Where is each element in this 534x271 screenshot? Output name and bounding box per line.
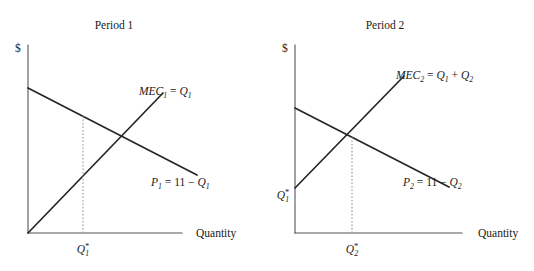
panel-1-demand-curve bbox=[28, 88, 197, 175]
panel-1-y-axis-label: $ bbox=[15, 42, 21, 54]
panel-2-mec-label: MEC2 = Q1 + Q2 bbox=[395, 69, 473, 84]
panel-period-2: Period 2 $ MEC2 = Q1 + Q2 P2 = 11 − Q2 Q… bbox=[267, 0, 534, 271]
panel-1-x-axis-label: Quantity bbox=[196, 227, 236, 240]
panel-2-y-axis-label: $ bbox=[282, 42, 288, 54]
externality-figure: Period 1 $ MEC1 = Q1 P1 = 11 − Q1 Quanti… bbox=[0, 0, 534, 271]
panel-period-1: Period 1 $ MEC1 = Q1 P1 = 11 − Q1 Quanti… bbox=[0, 0, 267, 271]
panel-2-y-intercept-q1: Q*1 bbox=[277, 187, 290, 204]
panel-1-x-tick-q1: Q*1 bbox=[77, 241, 90, 258]
panel-1-mec-label: MEC1 = Q1 bbox=[138, 85, 192, 100]
panel-2-x-tick-q2: Q*2 bbox=[346, 241, 359, 258]
panel-2-demand-label: P2 = 11 − Q2 bbox=[402, 176, 462, 191]
panel-2-title: Period 2 bbox=[366, 19, 405, 31]
panel-1-demand-label: P1 = 11 − Q1 bbox=[150, 176, 210, 191]
panel-1-title: Period 1 bbox=[95, 19, 134, 31]
panel-2-mec-curve bbox=[295, 76, 404, 188]
panel-2-x-axis-label: Quantity bbox=[478, 227, 518, 240]
panel-1-mec-curve bbox=[28, 93, 163, 233]
